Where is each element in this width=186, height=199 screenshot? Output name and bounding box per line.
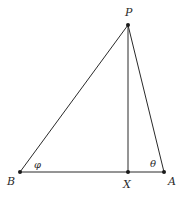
angle-label-phi: φ	[34, 159, 41, 170]
label-b: B	[6, 175, 15, 188]
point-p	[126, 23, 130, 27]
point-x	[126, 170, 130, 174]
segment-pa	[128, 25, 164, 172]
label-a: A	[167, 175, 176, 188]
point-b	[18, 170, 22, 174]
triangle-diagram: P B X A φ θ	[0, 0, 186, 199]
label-x: X	[122, 178, 132, 191]
label-p: P	[124, 6, 133, 19]
segment-pb	[20, 25, 128, 172]
point-a	[162, 170, 166, 174]
angle-label-theta: θ	[150, 158, 156, 169]
